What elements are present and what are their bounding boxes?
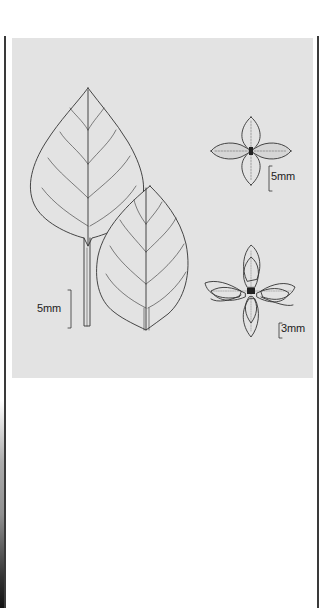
figure-panel: 5mm 3mm 5mm [12,38,313,378]
small-leaf-drawing [97,186,188,330]
scale-label-dense-rosette: 3mm [281,322,305,334]
left-margin-rule [4,36,6,608]
book-page: 5mm 3mm 5mm [0,0,333,608]
scale-label-main-leaf: 5mm [37,302,61,314]
right-margin-rule [317,36,319,608]
botanical-illustration [12,38,313,378]
scale-label-four-leaf-rosette: 5mm [271,170,295,182]
